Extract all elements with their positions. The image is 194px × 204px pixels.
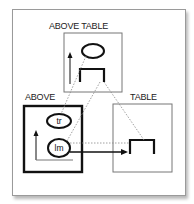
label-table: TABLE (130, 92, 157, 102)
dotted-connector (67, 82, 100, 141)
bracket-icon (130, 140, 154, 154)
dotted-connector (104, 82, 144, 140)
label-above: ABOVE (25, 92, 55, 102)
label-above-table: ABOVE TABLE (49, 21, 108, 31)
node-tr-label: tr (56, 116, 61, 126)
node-lm-label: lm (55, 143, 64, 153)
arrowhead-icon (34, 130, 39, 136)
ellipse-icon (82, 44, 104, 58)
panel-above-table (64, 33, 122, 92)
arrowhead-icon (68, 52, 73, 58)
right-arrow-icon (121, 149, 128, 155)
bracket-icon (80, 69, 104, 82)
diagram-canvas: ABOVE TABLE ABOVE tr lm TABLE (0, 0, 194, 204)
panel-table (113, 104, 172, 172)
